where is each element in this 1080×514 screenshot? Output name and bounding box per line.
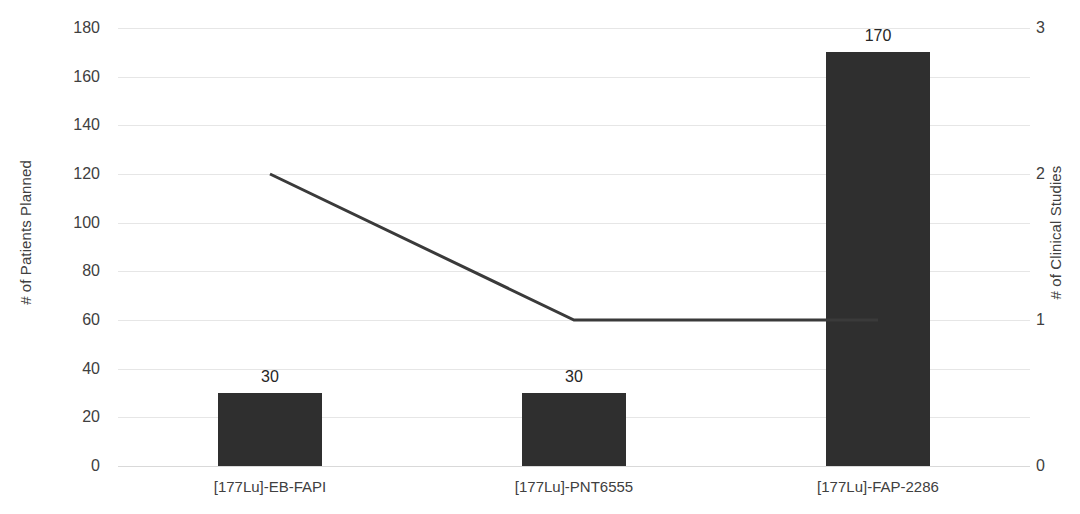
y-axis-left-tick-label: 60: [0, 312, 100, 328]
y-axis-left-tick-label: 180: [0, 20, 100, 36]
y-axis-left-tick-label: 20: [0, 409, 100, 425]
y-axis-left-tick-label: 160: [0, 69, 100, 85]
y-axis-left-tick-label: 80: [0, 263, 100, 279]
x-axis-category-label: [177Lu]-PNT6555: [422, 478, 726, 496]
y-axis-right-ticks: 0123: [1036, 0, 1080, 514]
y-axis-right-tick-label: 1: [1036, 312, 1060, 328]
bar-data-label: 170: [838, 28, 918, 44]
y-axis-left-ticks: 020406080100120140160180: [0, 0, 108, 514]
plot-area: 3030170: [118, 28, 1030, 466]
x-axis-category-label: [177Lu]-FAP-2286: [726, 478, 1030, 496]
y-axis-right-tick-label: 0: [1036, 458, 1060, 474]
bar[interactable]: [522, 393, 626, 466]
y-axis-right-tick-label: 2: [1036, 166, 1060, 182]
bar[interactable]: [826, 52, 930, 466]
line-series-path: [270, 174, 878, 320]
gridline: [118, 466, 1030, 467]
bar-data-label: 30: [534, 369, 614, 385]
chart-container: # of Patients Planned # of Clinical Stud…: [0, 0, 1080, 514]
y-axis-left-tick-label: 120: [0, 166, 100, 182]
bar[interactable]: [218, 393, 322, 466]
y-axis-right-tick-label: 3: [1036, 20, 1060, 36]
x-axis-category-label: [177Lu]-EB-FAPI: [118, 478, 422, 496]
y-axis-left-tick-label: 0: [0, 458, 100, 474]
bar-data-label: 30: [230, 369, 310, 385]
y-axis-left-tick-label: 40: [0, 361, 100, 377]
x-axis-category-labels: [177Lu]-EB-FAPI[177Lu]-PNT6555[177Lu]-FA…: [118, 478, 1030, 502]
y-axis-left-tick-label: 100: [0, 215, 100, 231]
y-axis-left-tick-label: 140: [0, 117, 100, 133]
